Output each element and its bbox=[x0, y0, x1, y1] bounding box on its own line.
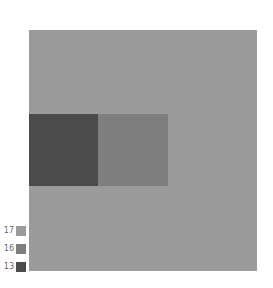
heatmap-region-medium-block bbox=[98, 114, 168, 186]
legend-swatch bbox=[16, 262, 26, 272]
legend-label: 13 bbox=[4, 262, 14, 271]
heatmap-plot bbox=[29, 30, 257, 271]
legend-swatch bbox=[16, 244, 26, 254]
legend-item: 13 bbox=[0, 261, 28, 275]
legend-swatch bbox=[16, 226, 26, 236]
legend-item: 16 bbox=[0, 243, 28, 257]
legend-label: 16 bbox=[4, 244, 14, 253]
legend-item: 17 bbox=[0, 225, 28, 239]
heatmap-region-dark-block bbox=[29, 114, 98, 186]
legend-label: 17 bbox=[4, 226, 14, 235]
